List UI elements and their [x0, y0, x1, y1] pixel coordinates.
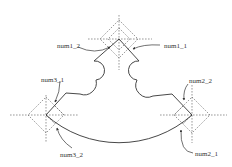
- node-num2-construction: [160, 85, 227, 143]
- arrow-num2-2: [184, 84, 188, 100]
- arrow-num1-1: [133, 45, 160, 49]
- node-num1-construction: [88, 15, 152, 70]
- diagram-canvas: num1_2 num1_1 num3_1 num3_2 num2_2 num2_…: [0, 0, 232, 167]
- arrow-num1-2: [78, 47, 110, 51]
- arrow-num3-1: [55, 81, 60, 102]
- label-num1-1: num1_1: [164, 42, 187, 50]
- label-num1-2: num1_2: [57, 42, 80, 50]
- label-num3-1: num3_1: [41, 76, 64, 84]
- arrow-num2-1: [181, 130, 193, 153]
- node-num3-construction: [10, 95, 78, 143]
- label-num2-1: num2_1: [195, 150, 218, 158]
- label-num3-2: num3_2: [60, 151, 83, 159]
- label-num2-2: num2_2: [189, 77, 212, 85]
